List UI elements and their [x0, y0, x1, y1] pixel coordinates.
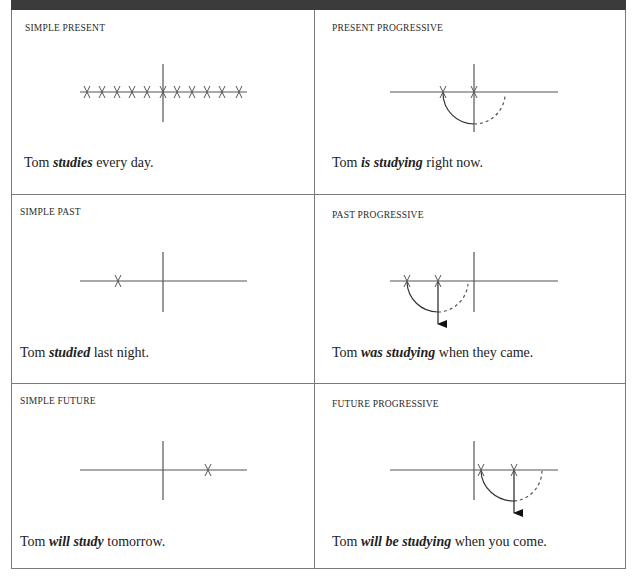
timeline-simple-past	[80, 252, 247, 312]
timeline-present-progressive	[390, 64, 558, 132]
timeline-simple-future	[80, 441, 247, 500]
timeline-past-progressive	[390, 252, 558, 324]
timeline-future-progressive	[390, 441, 558, 513]
timeline-simple-present	[80, 64, 247, 122]
timeline-diagrams	[0, 0, 640, 583]
